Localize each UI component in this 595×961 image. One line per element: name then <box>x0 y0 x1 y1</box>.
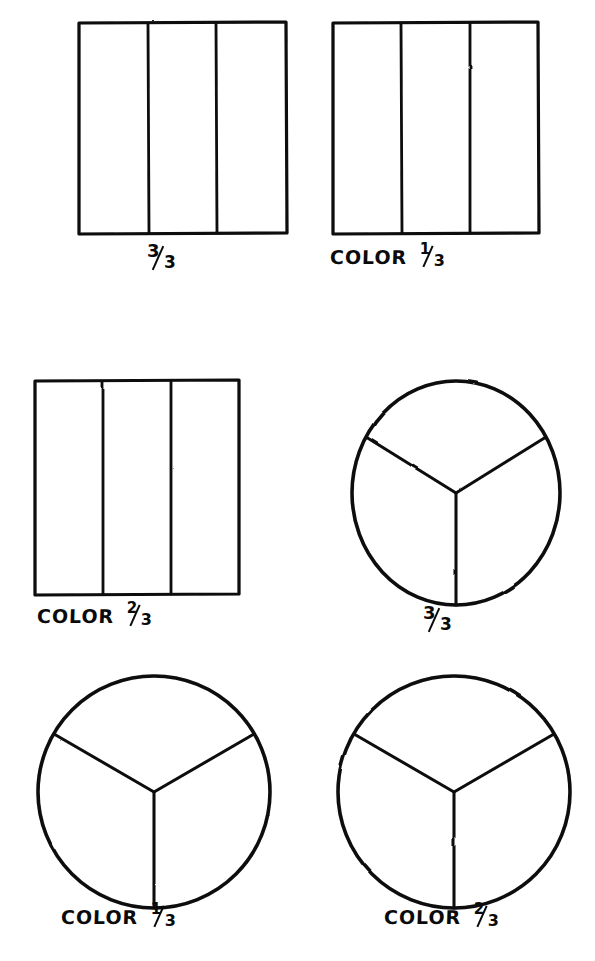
label-color-word: COLOR <box>330 248 408 267</box>
circle-radius-upper-left <box>366 437 456 493</box>
fraction-glyph: 2 3 <box>474 905 500 929</box>
fraction-glyph: 3 3 <box>423 608 453 632</box>
rect-divider-1 <box>148 24 149 233</box>
rect-outline <box>35 380 239 595</box>
fraction-denominator: 3 <box>434 253 446 269</box>
circle-radius-upper-right <box>456 437 546 493</box>
fraction-denominator: 3 <box>488 913 500 929</box>
bottom-cut-text <box>30 949 550 961</box>
figure-label-circle-thirds-3: COLOR 2 3 <box>384 905 500 929</box>
rect-divider-2 <box>216 23 217 233</box>
circle-radius-upper-right <box>154 734 254 792</box>
figures-canvas <box>0 0 595 961</box>
figure-circle-thirds-2[interactable] <box>38 676 270 908</box>
fraction-glyph: 1 3 <box>151 905 177 929</box>
figure-rect-thirds-3[interactable] <box>35 380 239 595</box>
label-color-word: COLOR <box>37 607 115 626</box>
circle-radius-upper-right <box>454 734 554 792</box>
figure-circle-thirds-1[interactable] <box>352 381 560 605</box>
fraction-glyph: 2 3 <box>127 604 153 628</box>
figure-circle-thirds-3[interactable] <box>338 676 570 908</box>
circle-radius-upper-left <box>354 734 454 792</box>
circle-radius-upper-left <box>54 734 154 792</box>
figure-rect-thirds-2[interactable] <box>333 22 539 234</box>
rect-divider-1 <box>401 24 402 233</box>
fraction-glyph: 1 3 <box>420 245 446 269</box>
fraction-denominator: 3 <box>141 612 153 628</box>
label-color-word: COLOR <box>61 908 139 927</box>
fraction-glyph: 3 3 <box>147 246 177 270</box>
label-color-word: COLOR <box>384 908 462 927</box>
fraction-denominator: 3 <box>440 616 453 633</box>
rect-outline <box>79 22 287 234</box>
figure-rect-thirds-1[interactable] <box>79 22 287 234</box>
figure-label-circle-thirds-2: COLOR 1 3 <box>61 905 177 929</box>
figure-label-circle-thirds-1: 3 3 <box>417 608 453 632</box>
fraction-denominator: 3 <box>164 254 177 271</box>
figure-label-rect-thirds-3: COLOR 2 3 <box>37 604 153 628</box>
figure-label-rect-thirds-2: COLOR 1 3 <box>330 245 446 269</box>
fraction-denominator: 3 <box>165 913 177 929</box>
figure-label-rect-thirds-1: 3 3 <box>141 246 177 270</box>
rect-outline <box>333 22 539 234</box>
worksheet-page: 3 3 COLOR 1 3 COLOR 2 3 3 3 COLOR 1 <box>0 0 595 961</box>
